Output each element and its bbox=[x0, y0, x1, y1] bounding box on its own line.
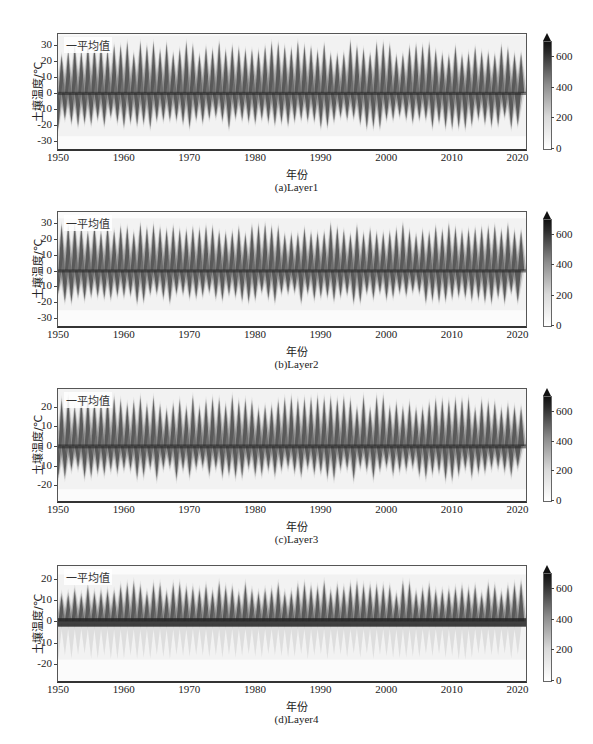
x-tick-label: 2000 bbox=[366, 151, 406, 163]
x-tick-label: 1950 bbox=[38, 328, 78, 340]
x-tick-label: 1960 bbox=[104, 328, 144, 340]
y-axis-label: 土壤温度/℃ bbox=[29, 579, 45, 669]
y-tick-label: 0 bbox=[26, 615, 52, 626]
y-tick-label: -30 bbox=[26, 312, 52, 323]
x-tick-label: 2020 bbox=[497, 328, 537, 340]
colorbar bbox=[543, 573, 552, 682]
colorbar-tick-mark bbox=[551, 441, 554, 442]
x-tick-label: 1950 bbox=[38, 683, 78, 695]
y-tick-label: 20 bbox=[26, 55, 52, 66]
colorbar-tick-mark bbox=[551, 148, 554, 149]
y-tick-label: -10 bbox=[26, 460, 52, 471]
x-tick-label: 1970 bbox=[169, 503, 209, 515]
x-tick-label: 1990 bbox=[301, 151, 341, 163]
y-tick-mark bbox=[54, 485, 57, 486]
colorbar-tick-label: 200 bbox=[556, 644, 573, 655]
x-tick-label: 2010 bbox=[432, 503, 472, 515]
x-axis-label: 年份 bbox=[0, 343, 593, 359]
x-tick-label: 1980 bbox=[235, 503, 275, 515]
plot-area: 一平均值 bbox=[57, 211, 527, 328]
x-tick-label: 1990 bbox=[301, 503, 341, 515]
plot-area: 一平均值 bbox=[57, 33, 527, 151]
x-tick-label: 1980 bbox=[235, 328, 275, 340]
y-tick-mark bbox=[54, 426, 57, 427]
panel-3: 一平均值20100-10-20土壤温度/℃1950196019701980199… bbox=[0, 0, 593, 744]
y-tick-label: 0 bbox=[26, 87, 52, 98]
x-tick-label: 1960 bbox=[104, 683, 144, 695]
y-tick-label: -10 bbox=[26, 103, 52, 114]
colorbar-tick-mark bbox=[551, 234, 554, 235]
legend: 一平均值 bbox=[64, 569, 112, 585]
colorbar-extend-arrow bbox=[543, 211, 551, 219]
colorbar-tick-mark bbox=[551, 470, 554, 471]
x-tick-label: 2010 bbox=[432, 683, 472, 695]
y-tick-label: -20 bbox=[26, 119, 52, 130]
y-tick-label: 10 bbox=[26, 71, 52, 82]
colorbar-tick-label: 400 bbox=[556, 259, 573, 270]
x-tick-label: 1960 bbox=[104, 503, 144, 515]
colorbar-tick-label: 600 bbox=[556, 406, 573, 417]
y-tick-mark bbox=[54, 466, 57, 467]
density-heatmap bbox=[58, 212, 526, 326]
density-heatmap bbox=[58, 566, 526, 681]
colorbar-tick-mark bbox=[551, 264, 554, 265]
legend: 一平均值 bbox=[64, 392, 112, 408]
colorbar-tick-label: 0 bbox=[556, 495, 562, 506]
colorbar-tick-label: 400 bbox=[556, 614, 573, 625]
y-tick-label: 30 bbox=[26, 39, 52, 50]
y-tick-mark bbox=[54, 125, 57, 126]
panel-caption: (b)Layer2 bbox=[0, 358, 593, 370]
x-axis-label: 年份 bbox=[0, 698, 593, 714]
y-tick-label: 10 bbox=[26, 249, 52, 260]
colorbar-tick-label: 200 bbox=[556, 112, 573, 123]
colorbar-tick-mark bbox=[551, 588, 554, 589]
y-tick-mark bbox=[54, 407, 57, 408]
legend: 一平均值 bbox=[64, 37, 112, 53]
x-tick-label: 2000 bbox=[366, 503, 406, 515]
colorbar bbox=[543, 219, 552, 327]
colorbar bbox=[543, 396, 552, 502]
y-tick-mark bbox=[54, 109, 57, 110]
y-tick-mark bbox=[54, 93, 57, 94]
x-tick-label: 1950 bbox=[38, 503, 78, 515]
y-tick-mark bbox=[54, 318, 57, 319]
x-tick-label: 1990 bbox=[301, 328, 341, 340]
y-tick-label: 0 bbox=[26, 440, 52, 451]
y-tick-label: 10 bbox=[26, 594, 52, 605]
x-tick-label: 2010 bbox=[432, 328, 472, 340]
colorbar-extend-arrow bbox=[543, 565, 551, 573]
colorbar-tick-label: 0 bbox=[556, 320, 562, 331]
y-tick-mark bbox=[54, 664, 57, 665]
y-tick-label: 20 bbox=[26, 573, 52, 584]
colorbar-extend-arrow bbox=[543, 388, 551, 396]
x-tick-label: 2000 bbox=[366, 328, 406, 340]
legend: 一平均值 bbox=[64, 215, 112, 231]
y-tick-mark bbox=[54, 579, 57, 580]
colorbar-tick-label: 200 bbox=[556, 290, 573, 301]
colorbar-tick-mark bbox=[551, 295, 554, 296]
y-tick-label: -20 bbox=[26, 658, 52, 669]
density-heatmap bbox=[58, 34, 526, 149]
x-tick-label: 1980 bbox=[235, 151, 275, 163]
panel-caption: (a)Layer1 bbox=[0, 181, 593, 193]
density-heatmap bbox=[58, 389, 526, 501]
colorbar-tick-label: 600 bbox=[556, 229, 573, 240]
panel-caption: (d)Layer4 bbox=[0, 713, 593, 725]
y-tick-label: 20 bbox=[26, 233, 52, 244]
y-tick-mark bbox=[54, 286, 57, 287]
colorbar-tick-mark bbox=[551, 87, 554, 88]
y-axis-label: 土壤温度/℃ bbox=[29, 47, 45, 137]
x-tick-label: 2020 bbox=[497, 151, 537, 163]
colorbar-tick-mark bbox=[551, 649, 554, 650]
y-tick-mark bbox=[54, 643, 57, 644]
panel-caption: (c)Layer3 bbox=[0, 533, 593, 545]
colorbar-tick-mark bbox=[551, 680, 554, 681]
y-tick-mark bbox=[54, 239, 57, 240]
x-tick-label: 1960 bbox=[104, 151, 144, 163]
colorbar-tick-mark bbox=[551, 117, 554, 118]
y-tick-mark bbox=[54, 271, 57, 272]
colorbar bbox=[543, 41, 552, 150]
panel-2: 一平均值3020100-10-20-30土壤温度/℃19501960197019… bbox=[0, 0, 593, 744]
colorbar-tick-mark bbox=[551, 619, 554, 620]
x-tick-label: 1990 bbox=[301, 683, 341, 695]
